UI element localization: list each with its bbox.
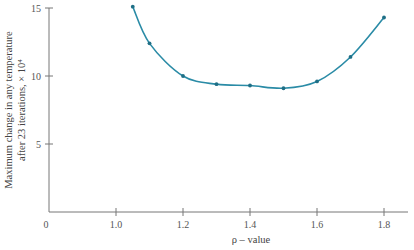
y-axis-label-line2: after 23 iterations, × 10⁴ [16, 59, 27, 161]
data-point [315, 80, 319, 84]
data-point [248, 84, 252, 88]
x-tick-label: 1.4 [244, 219, 257, 230]
data-point [148, 41, 152, 45]
series-line [133, 7, 384, 89]
y-tick-label: 15 [31, 3, 41, 14]
x-tick-label: 1.0 [110, 219, 123, 230]
y-tick-label: 5 [36, 139, 41, 150]
data-point [131, 5, 135, 9]
data-point [282, 86, 286, 90]
chart: 51015 1.01.21.41.61.8 0 ρ – value Maximu… [0, 0, 414, 250]
data-point [181, 74, 185, 78]
y-tick-label: 10 [31, 71, 41, 82]
data-series [131, 5, 386, 90]
y-ticks: 51015 [31, 3, 53, 150]
data-point [215, 82, 219, 86]
data-point [382, 16, 386, 20]
axes [49, 8, 408, 212]
x-tick-label: 1.6 [311, 219, 324, 230]
y-axis-label: Maximum change in any temperature after … [3, 31, 27, 189]
y-axis-label-line1: Maximum change in any temperature [3, 31, 14, 189]
x-ticks: 1.01.21.41.61.8 [110, 208, 391, 230]
x-tick-label: 1.2 [177, 219, 190, 230]
x-tick-label: 1.8 [378, 219, 391, 230]
x-axis-label: ρ – value [232, 234, 271, 245]
data-point [349, 55, 353, 59]
origin-label: 0 [44, 219, 49, 230]
